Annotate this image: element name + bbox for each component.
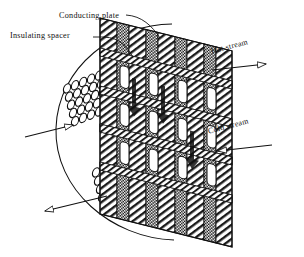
label-conducting-plate: Conducting plate — [59, 11, 119, 20]
heat-exchanger-figure: Conducting plate Insulating spacer Hot s… — [0, 0, 304, 257]
inlet-arrow — [25, 125, 73, 137]
outlet-arrow — [45, 196, 107, 211]
label-insulating-spacer: Insulating spacer — [10, 31, 70, 40]
